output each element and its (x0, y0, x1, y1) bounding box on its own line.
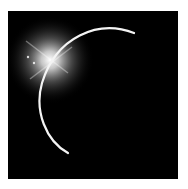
eclipse-illustration (8, 11, 178, 179)
eclipse-photo (8, 11, 178, 179)
